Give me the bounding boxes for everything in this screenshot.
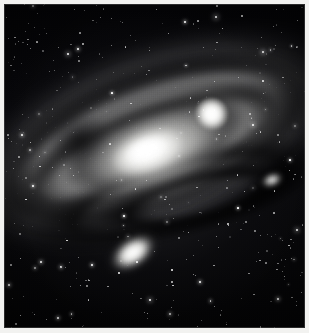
screenshot-root: Andromeda Galaxy	[0, 0, 309, 333]
plate-edge-line	[4, 4, 305, 328]
photographic-plate	[4, 4, 305, 328]
